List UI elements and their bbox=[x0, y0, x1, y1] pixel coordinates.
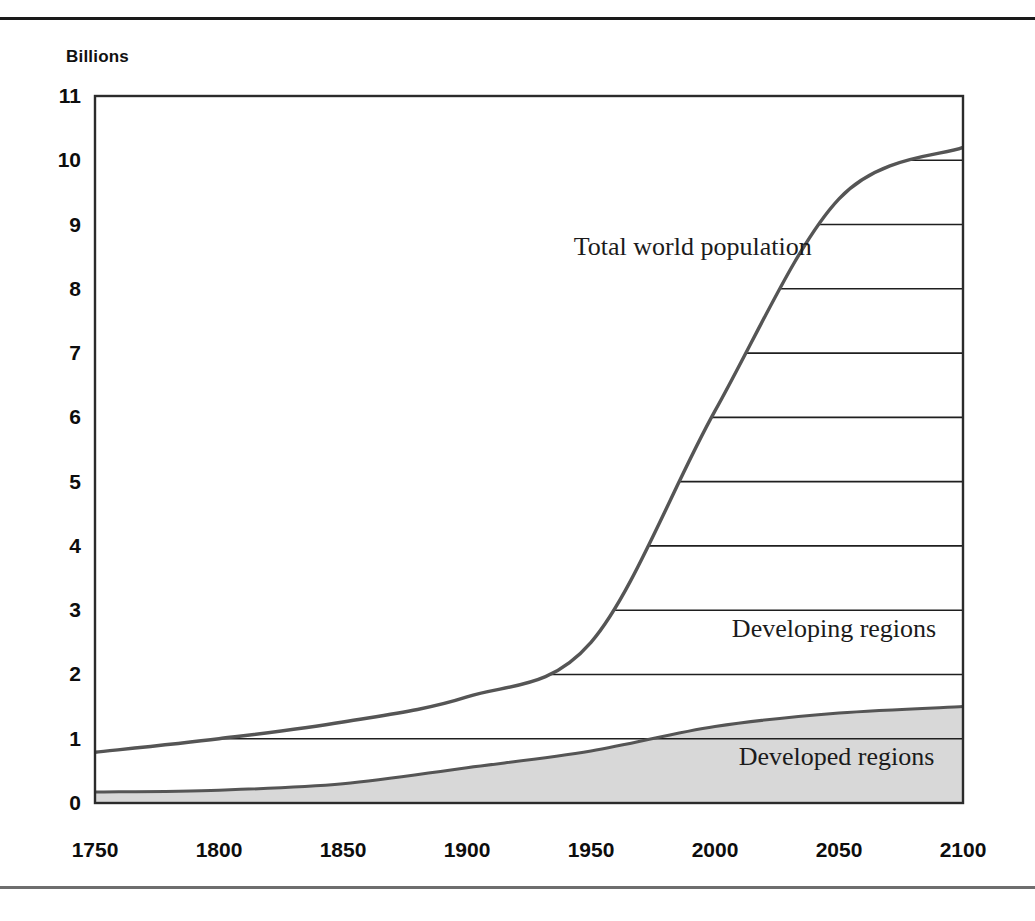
population-area-chart bbox=[0, 0, 1035, 921]
y-tick-4: 4 bbox=[35, 534, 81, 558]
total-population-curve bbox=[95, 147, 963, 752]
y-tick-10: 10 bbox=[35, 148, 81, 172]
gridlines bbox=[95, 160, 963, 738]
x-tick-1950: 1950 bbox=[531, 838, 651, 862]
annotation-developing-regions: Developing regions bbox=[732, 614, 936, 644]
x-tick-2000: 2000 bbox=[655, 838, 775, 862]
total-world-population-line bbox=[95, 147, 963, 752]
y-tick-11: 11 bbox=[35, 84, 81, 108]
y-tick-9: 9 bbox=[35, 213, 81, 237]
x-tick-2050: 2050 bbox=[779, 838, 899, 862]
x-tick-1750: 1750 bbox=[35, 838, 155, 862]
y-tick-0: 0 bbox=[35, 791, 81, 815]
y-tick-6: 6 bbox=[35, 405, 81, 429]
plot-frame bbox=[95, 96, 963, 803]
y-tick-8: 8 bbox=[35, 277, 81, 301]
y-tick-2: 2 bbox=[35, 662, 81, 686]
annotation-developed-regions: Developed regions bbox=[739, 742, 935, 772]
x-tick-1900: 1900 bbox=[407, 838, 527, 862]
chart-page: Billions 01234567891011 1750180018501900… bbox=[0, 0, 1035, 921]
y-tick-3: 3 bbox=[35, 598, 81, 622]
y-tick-1: 1 bbox=[35, 727, 81, 751]
y-tick-7: 7 bbox=[35, 341, 81, 365]
x-tick-1850: 1850 bbox=[283, 838, 403, 862]
x-tick-1800: 1800 bbox=[159, 838, 279, 862]
y-tick-5: 5 bbox=[35, 470, 81, 494]
x-tick-2100: 2100 bbox=[903, 838, 1023, 862]
annotation-total-world-population: Total world population bbox=[574, 232, 812, 262]
